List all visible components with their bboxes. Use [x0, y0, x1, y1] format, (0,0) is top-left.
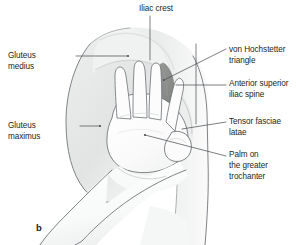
leader-dot-gluteus-medius [127, 55, 129, 57]
label-von-hochstetter-triangle: von Hochstetter triangle [229, 44, 301, 66]
label-palm-greater-trochanter: Palm on the greater trochanter [229, 149, 301, 183]
label-iliac-crest: Iliac crest [110, 3, 202, 14]
anatomical-figure: Iliac crest Gluteus medius Gluteus maxim… [0, 0, 302, 245]
figure-panel-letter: b [36, 222, 42, 233]
label-gluteus-maximus: Gluteus maximus [8, 120, 78, 142]
leader-dot-gluteus-maximus [99, 125, 101, 127]
finger-middle [133, 61, 147, 118]
leader-dot-palm [144, 134, 146, 136]
leader-dot-hochstetter [163, 79, 165, 81]
label-gluteus-medius: Gluteus medius [8, 50, 74, 72]
finger-ring [149, 63, 162, 120]
label-anterior-superior-iliac-spine: Anterior superior iliac spine [229, 78, 301, 100]
label-tensor-fasciae-latae: Tensor fasciae latae [229, 116, 301, 138]
